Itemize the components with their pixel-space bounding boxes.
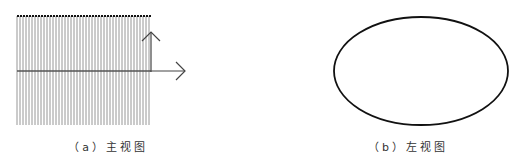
caption-front-view: （a）主视图 [68,138,148,154]
left-view-panel [334,17,508,125]
arrow-up-icon [142,32,160,72]
front-view-panel [17,16,185,125]
arrow-right-icon [151,62,185,80]
axis-arrows [142,32,185,80]
ellipse-outline [334,17,508,125]
caption-left-view: （b）左视图 [368,138,448,154]
